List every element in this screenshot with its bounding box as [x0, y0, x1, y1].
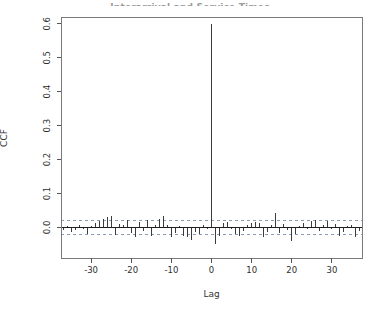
y-tick-label: 0.3 — [42, 119, 52, 133]
y-tick-label: 0.1 — [42, 187, 52, 201]
x-tick-label: 10 — [246, 265, 257, 275]
y-tick-label: 0.0 — [42, 221, 52, 235]
x-tick-label: -10 — [164, 265, 178, 275]
y-tick-label: 0.6 — [42, 17, 52, 31]
x-tick-label: 20 — [286, 265, 297, 275]
y-axis-label: CCF — [0, 108, 9, 168]
x-tick-label: -20 — [124, 265, 138, 275]
y-tick-label: 0.4 — [42, 85, 52, 99]
y-tick-label: 0.2 — [42, 153, 52, 167]
ccf-figure: Interarrival and Service Times -30-20-10… — [0, 0, 380, 318]
x-tick-label: 30 — [326, 265, 337, 275]
x-tick-label: 0 — [209, 265, 214, 275]
ccf-plot-canvas: -30-20-1001020300.00.10.20.30.40.50.6 — [0, 0, 380, 318]
y-tick-label: 0.5 — [42, 51, 52, 65]
x-tick-label: -30 — [84, 265, 98, 275]
x-axis-label: Lag — [61, 289, 362, 299]
